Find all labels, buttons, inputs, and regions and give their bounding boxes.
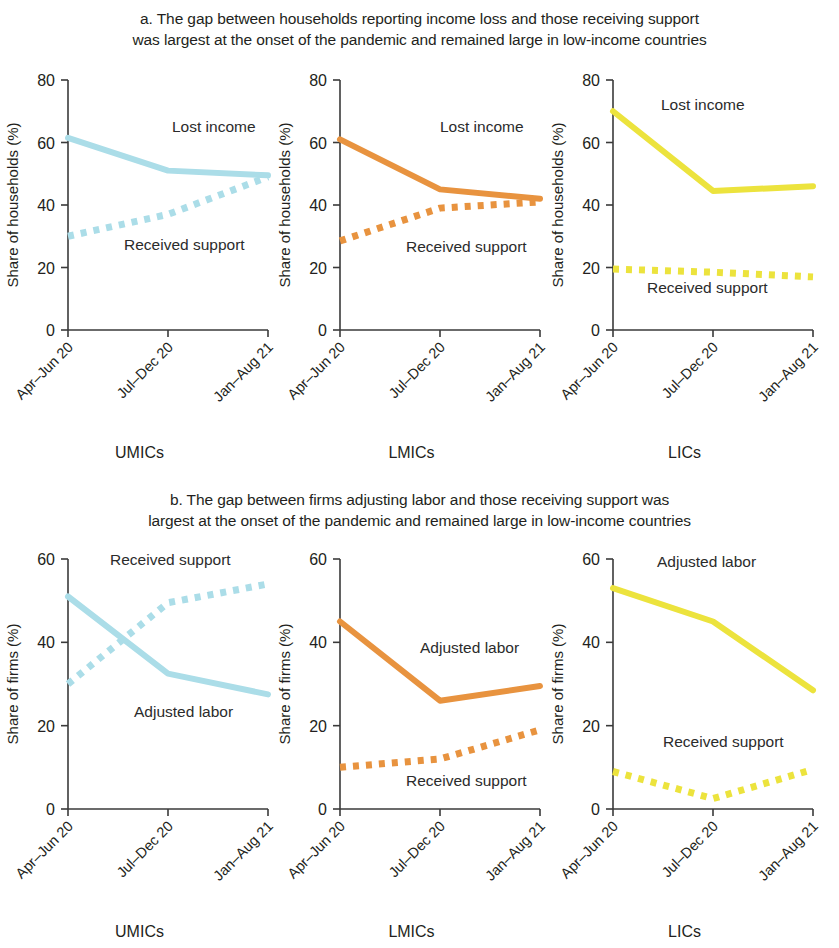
x-tick-label-0: Apr–Jun 20: [557, 818, 621, 882]
y-axis-title: Share of firms (%): [4, 624, 21, 745]
series-annotation-received-support: Received support: [124, 236, 245, 253]
y-tick-label-0: 0: [591, 322, 600, 339]
chart-b-lics: 0204060Apr–Jun 20Jul–Dec 20Jan–Aug 21Sha…: [545, 541, 824, 941]
series-annotation-lost-income: Lost income: [172, 118, 256, 135]
y-tick-label-80: 80: [582, 72, 600, 89]
series-annotation-received-support: Received support: [663, 733, 784, 750]
group-label-umics-b: UMICs: [0, 923, 279, 941]
panel-b-charts-row: 0204060Apr–Jun 20Jul–Dec 20Jan–Aug 21Sha…: [0, 541, 839, 941]
x-tick-label-0: Apr–Jun 20: [284, 818, 348, 882]
chart-cell-a-umics: 020406080Apr–Jun 20Jul–Dec 20Jan–Aug 21S…: [0, 62, 279, 462]
y-tick-label-40: 40: [37, 634, 55, 651]
y-tick-label-60: 60: [37, 135, 55, 152]
panel-b-title-line1: b. The gap between firms adjusting labor…: [0, 489, 839, 510]
panel-b-title: b. The gap between firms adjusting labor…: [0, 489, 839, 531]
x-tick-label-2: Jan–Aug 21: [482, 818, 548, 884]
panel-a-group-labels: UMICs LMICs LICs: [0, 444, 839, 468]
y-tick-label-60: 60: [582, 135, 600, 152]
y-tick-label-20: 20: [582, 260, 600, 277]
x-tick-label-1: Jul–Dec 20: [386, 339, 449, 402]
y-tick-label-0: 0: [318, 322, 327, 339]
group-label-lmics-a: LMICs: [272, 444, 551, 462]
y-tick-label-20: 20: [37, 718, 55, 735]
chart-b-umics: 0204060Apr–Jun 20Jul–Dec 20Jan–Aug 21Sha…: [0, 541, 279, 941]
chart-a-umics: 020406080Apr–Jun 20Jul–Dec 20Jan–Aug 21S…: [0, 62, 279, 462]
x-tick-label-0: Apr–Jun 20: [12, 818, 76, 882]
x-tick-label-1: Jul–Dec 20: [114, 818, 177, 881]
series-line-lost-income: [340, 139, 540, 198]
chart-cell-b-lics: 0204060Apr–Jun 20Jul–Dec 20Jan–Aug 21Sha…: [545, 541, 824, 941]
series-annotation-received-support: Received support: [647, 279, 768, 296]
chart-cell-a-lmics: 020406080Apr–Jun 20Jul–Dec 20Jan–Aug 21S…: [272, 62, 551, 462]
series-line-received-support: [68, 177, 268, 236]
x-tick-label-1: Jul–Dec 20: [659, 339, 722, 402]
y-tick-label-80: 80: [37, 72, 55, 89]
chart-cell-b-umics: 0204060Apr–Jun 20Jul–Dec 20Jan–Aug 21Sha…: [0, 541, 279, 941]
series-line-adjusted-labor: [340, 622, 540, 701]
series-line-received-support: [613, 269, 813, 277]
y-axis-title: Share of firms (%): [276, 624, 293, 745]
panel-b-title-line2: largest at the onset of the pandemic and…: [0, 510, 839, 531]
series-annotation-received-support: Received support: [406, 772, 527, 789]
x-tick-label-0: Apr–Jun 20: [12, 339, 76, 403]
y-tick-label-20: 20: [309, 718, 327, 735]
x-tick-label-2: Jan–Aug 21: [755, 339, 821, 405]
x-tick-label-0: Apr–Jun 20: [284, 339, 348, 403]
y-axis-title: Share of households (%): [549, 122, 566, 287]
y-tick-label-0: 0: [46, 322, 55, 339]
y-tick-label-40: 40: [582, 634, 600, 651]
series-line-received-support: [613, 769, 813, 798]
panel-b-group-labels: UMICs LMICs LICs: [0, 923, 839, 947]
series-annotation-adjusted-labor: Adjusted labor: [420, 639, 519, 656]
y-tick-label-0: 0: [318, 801, 327, 818]
series-line-received-support: [68, 584, 268, 684]
x-tick-label-2: Jan–Aug 21: [210, 818, 276, 884]
y-tick-label-40: 40: [309, 197, 327, 214]
chart-cell-a-lics: 020406080Apr–Jun 20Jul–Dec 20Jan–Aug 21S…: [545, 62, 824, 462]
y-tick-label-20: 20: [309, 260, 327, 277]
chart-cell-b-lmics: 0204060Apr–Jun 20Jul–Dec 20Jan–Aug 21Sha…: [272, 541, 551, 941]
y-tick-label-60: 60: [309, 551, 327, 568]
y-tick-label-60: 60: [37, 551, 55, 568]
series-line-received-support: [340, 202, 540, 241]
series-annotation-adjusted-labor: Adjusted labor: [134, 703, 233, 720]
group-label-umics-a: UMICs: [0, 444, 279, 462]
chart-a-lics: 020406080Apr–Jun 20Jul–Dec 20Jan–Aug 21S…: [545, 62, 824, 462]
series-line-received-support: [340, 730, 540, 768]
x-tick-label-0: Apr–Jun 20: [557, 339, 621, 403]
y-axis-title: Share of households (%): [276, 122, 293, 287]
y-tick-label-60: 60: [309, 135, 327, 152]
y-tick-label-0: 0: [591, 801, 600, 818]
series-line-lost-income: [68, 138, 268, 176]
series-annotation-lost-income: Lost income: [661, 96, 745, 113]
x-tick-label-1: Jul–Dec 20: [659, 818, 722, 881]
y-tick-label-40: 40: [37, 197, 55, 214]
y-axis-title: Share of firms (%): [549, 624, 566, 745]
y-tick-label-60: 60: [582, 551, 600, 568]
y-tick-label-40: 40: [309, 634, 327, 651]
y-tick-label-80: 80: [309, 72, 327, 89]
panel-a-title: a. The gap between households reporting …: [0, 8, 839, 50]
panel-a-charts-row: 020406080Apr–Jun 20Jul–Dec 20Jan–Aug 21S…: [0, 62, 839, 462]
series-line-adjusted-labor: [68, 597, 268, 695]
series-line-lost-income: [613, 111, 813, 191]
x-tick-label-2: Jan–Aug 21: [755, 818, 821, 884]
group-label-lics-a: LICs: [545, 444, 824, 462]
series-annotation-adjusted-labor: Adjusted labor: [657, 553, 756, 570]
y-tick-label-0: 0: [46, 801, 55, 818]
x-tick-label-2: Jan–Aug 21: [210, 339, 276, 405]
series-annotation-received-support: Received support: [406, 238, 527, 255]
group-label-lics-b: LICs: [545, 923, 824, 941]
y-tick-label-20: 20: [582, 718, 600, 735]
x-tick-label-1: Jul–Dec 20: [114, 339, 177, 402]
y-tick-label-40: 40: [582, 197, 600, 214]
series-line-adjusted-labor: [613, 588, 813, 690]
y-axis-title: Share of households (%): [4, 122, 21, 287]
y-tick-label-20: 20: [37, 260, 55, 277]
figure-container: a. The gap between households reporting …: [0, 0, 839, 948]
series-annotation-received-support: Received support: [110, 551, 231, 568]
x-tick-label-2: Jan–Aug 21: [482, 339, 548, 405]
series-annotation-lost-income: Lost income: [440, 118, 524, 135]
x-tick-label-1: Jul–Dec 20: [386, 818, 449, 881]
chart-b-lmics: 0204060Apr–Jun 20Jul–Dec 20Jan–Aug 21Sha…: [272, 541, 551, 941]
